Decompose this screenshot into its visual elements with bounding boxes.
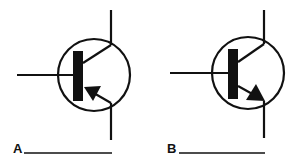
transistor-diagram [0,0,298,164]
transistor-a-collector-diagonal [83,45,111,63]
label-b: B [167,141,176,156]
transistor-a-symbol [17,10,130,140]
transistor-b-collector-diagonal [238,44,264,62]
transistor-b-symbol [170,10,284,138]
transistor-a-arrow-icon [84,86,101,101]
label-a: A [13,141,22,156]
transistor-a-base-bar [73,51,83,101]
transistor-b-base-bar [228,49,238,99]
